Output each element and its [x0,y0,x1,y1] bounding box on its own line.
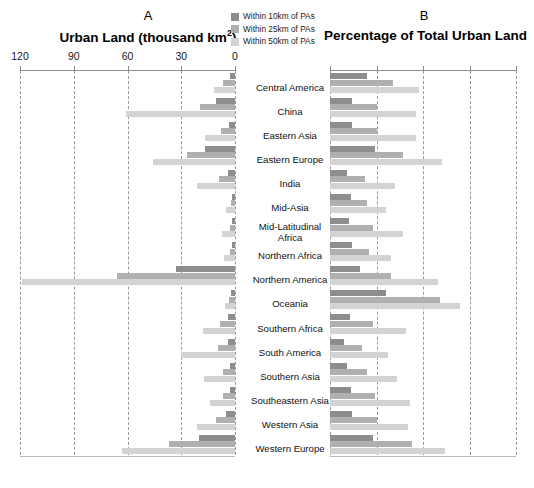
legend-label-within_25km: Within 25km of PAs [243,24,315,35]
legend-item-within_50km: Within 50km of PAs [231,36,315,48]
panel-b-bar-group [330,122,516,141]
panel-a-bar [199,435,235,441]
panel-a-bar [153,159,235,165]
chart-figure: A Urban Land (thousand km2) B Percentage… [0,0,534,488]
panel-a-letter: A [128,8,168,23]
panel-a-tick-label-3: 30 [166,50,196,62]
legend-label-within_50km: Within 50km of PAs [243,36,315,47]
panel-b-bar [330,159,442,165]
category-label: Eastern Asia [236,130,344,141]
panel-a-bar [225,303,235,309]
panel-a-bar-group [20,435,235,454]
panel-a-bar [230,387,235,393]
category-label: South America [236,347,344,358]
panel-a-plot: 1209060300 [20,70,235,456]
panel-b-frame-bottom [330,456,516,457]
panel-b-bar-group [330,314,516,333]
panel-a-bar [230,73,235,79]
panel-a-bar-group [20,290,235,309]
panel-b-bar [330,363,347,369]
panel-a-bar [205,135,236,141]
panel-a-bar [205,146,236,152]
panel-a-frame-bottom [20,456,235,457]
panel-a-bar-group [20,363,235,382]
panel-b-bar [330,194,351,200]
panel-a-bar-group [20,122,235,141]
panel-a-bar-group [20,387,235,406]
category-label: Oceania [236,298,344,309]
panel-a-bar [230,249,235,255]
panel-a-bar [210,400,235,406]
category-label: Western Asia [236,419,344,430]
panel-b-bar-group [330,387,516,406]
category-label: Mid-Asia [236,202,344,213]
panel-b-gridline-4 [516,71,517,455]
panel-a-bar-group [20,339,235,358]
panel-a-bar-group [20,170,235,189]
panel-a-tick-label-1: 90 [59,50,89,62]
legend-swatch-within_25km [231,25,239,33]
panel-a-bar [222,231,235,237]
panel-a-bar [226,411,235,417]
panel-a-bar [223,369,236,375]
legend-swatch-within_50km [231,38,239,46]
panel-b-bar [330,98,352,104]
legend-item-within_25km: Within 25km of PAs [231,24,315,36]
panel-b-bar [330,448,445,454]
panel-a-bar [216,417,235,423]
legend-item-within_10km: Within 10km of PAs [231,11,315,23]
panel-a-bar [181,352,235,358]
panel-a-bar [228,339,235,345]
panel-b-bar-group [330,98,516,117]
panel-b-plot [330,70,516,456]
category-label: India [236,178,344,189]
panel-a-bar-group [20,218,235,237]
panel-a-bar [216,98,235,104]
legend-label-within_10km: Within 10km of PAs [243,11,315,22]
panel-a-title-main: Urban Land (thousand km [60,30,227,45]
panel-a-bar [221,128,235,134]
panel-b-bar-group [330,411,516,430]
panel-b-bar-group [330,435,516,454]
panel-b-bar-group [330,339,516,358]
panel-a-bar-group [20,411,235,430]
panel-b-bar [330,170,347,176]
panel-b-bar [330,297,440,303]
category-label: Central America [236,82,344,93]
panel-b-bar [330,122,352,128]
panel-b-bar [330,146,375,152]
panel-a-bar [126,111,235,117]
panel-a-tick-label-2: 60 [113,50,143,62]
panel-b-bar-group [330,218,516,237]
panel-a-bar [229,122,235,128]
panel-a-bar [231,290,235,296]
panel-b-bar [330,339,344,345]
panel-a-bar [223,393,235,399]
panel-b-bar-group [330,73,516,92]
panel-a-bar-group [20,73,235,92]
category-label: China [236,106,344,117]
panel-b-letter: B [404,8,444,23]
panel-a-tick-label-0: 120 [5,50,35,62]
panel-a-bar [204,376,235,382]
panel-b-bar [330,303,460,309]
panel-a-bar [218,345,235,351]
panel-a-bar [228,170,235,176]
panel-a-bar [187,152,235,158]
panel-a-bar [232,194,235,200]
panel-a-bar [229,297,235,303]
panel-b-bar-group [330,290,516,309]
panel-b-bar-group [330,170,516,189]
panel-a-bar [197,183,235,189]
panel-a-bar [228,314,235,320]
panel-b-bar [330,314,350,320]
panel-a-bar [176,266,235,272]
panel-a-bar [232,242,235,248]
category-label: Southern Asia [236,371,344,382]
panel-b-bar [330,73,367,79]
category-label: Southeastern Asia [236,395,344,406]
panel-b-bar-group [330,363,516,382]
panel-a-bar-group [20,314,235,333]
panel-a-tick-label-4: 0 [220,50,250,62]
panel-a-bar [230,363,235,369]
